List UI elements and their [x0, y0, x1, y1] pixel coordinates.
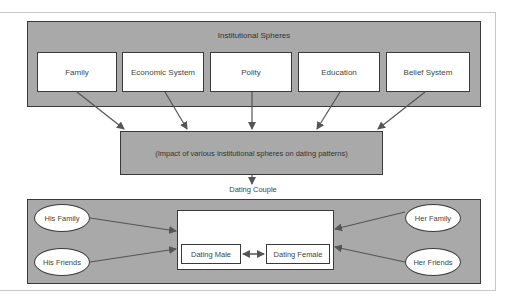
sphere-family: Family [37, 52, 117, 92]
dating-male-box: Dating Male [181, 244, 241, 264]
his-family-ellipse: His Family [34, 204, 90, 232]
sphere-polity: Polity [210, 52, 292, 92]
sphere-education: Education [298, 52, 380, 92]
her-friends-ellipse: Her Friends [405, 248, 461, 276]
institutional-spheres-title: Institutional Spheres [28, 31, 480, 40]
dating-couple-label: Dating Couple [203, 185, 303, 194]
sphere-economic-system: Economic System [122, 52, 204, 92]
his-friends-ellipse: His Friends [34, 248, 90, 276]
her-family-ellipse: Her Family [405, 204, 461, 232]
sphere-belief-system: Belief System [386, 52, 470, 92]
impact-panel: (Impact of various institutional spheres… [120, 131, 383, 175]
impact-label: (Impact of various institutional spheres… [121, 132, 382, 174]
dating-female-box: Dating Female [266, 244, 330, 264]
